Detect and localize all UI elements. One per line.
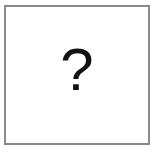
unknown-image-placeholder: ? [4, 5, 150, 145]
question-mark-icon: ? [6, 2, 148, 138]
